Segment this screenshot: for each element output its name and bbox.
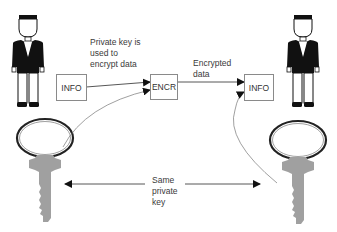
receiver-info-label: INFO xyxy=(249,83,269,93)
info-to-encr-arrow xyxy=(86,82,150,87)
sender-person-icon xyxy=(12,15,44,107)
diagram-canvas: INFO ENCR INFO Private key is used to en… xyxy=(0,0,337,232)
encrypted-data-note: Encrypted data xyxy=(193,58,231,80)
private-key-note: Private key is used to encrypt data xyxy=(90,37,141,70)
receiver-key-icon xyxy=(270,121,326,224)
encryptor-box: ENCR xyxy=(150,74,178,100)
receiver-person-icon xyxy=(287,15,319,107)
receiver-info-box: INFO xyxy=(244,74,274,101)
sender-info-label: INFO xyxy=(61,83,81,93)
same-key-note: Same private key xyxy=(152,175,178,208)
sender-key-icon xyxy=(17,119,73,222)
sender-info-box: INFO xyxy=(56,74,87,101)
encryptor-label: ENCR xyxy=(152,82,176,92)
